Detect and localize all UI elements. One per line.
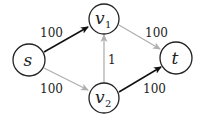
node-v1: v 1 <box>89 4 119 34</box>
edge-label-s-v1: 100 <box>40 26 63 40</box>
node-v2: v 2 <box>89 83 119 113</box>
node-label-v1: v <box>95 8 105 28</box>
edge-label-s-v2: 100 <box>40 82 63 96</box>
node-label-v2: v <box>95 87 105 107</box>
node-label-t: t <box>172 48 179 68</box>
node-label-s: s <box>24 50 33 70</box>
edge-label-v1-t: 100 <box>145 26 168 40</box>
node-sub-v1: 1 <box>105 19 111 30</box>
edge-label-v2-t: 100 <box>143 82 166 96</box>
node-t: t <box>160 42 192 74</box>
node-sub-v2: 2 <box>105 98 111 109</box>
edge-label-v2-v1: 1 <box>108 53 116 67</box>
node-s: s <box>13 44 45 76</box>
flow-network-diagram: 100 100 1 100 100 s v 1 v 2 t <box>0 0 209 121</box>
